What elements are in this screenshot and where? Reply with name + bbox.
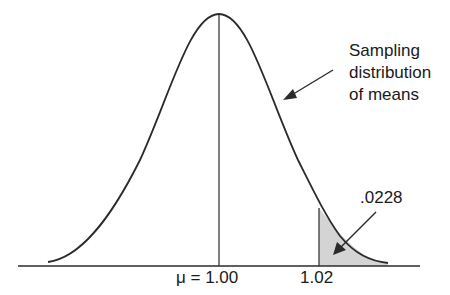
arrow-icon	[283, 70, 333, 100]
tick-label-mean: μ = 1.00	[176, 268, 238, 288]
bell-curve	[48, 14, 388, 263]
curve-annotation-line: Sampling	[349, 40, 431, 62]
shaded-tail-area	[319, 208, 388, 266]
curve-annotation-line: distribution	[349, 62, 431, 84]
tick-label-cutoff: 1.02	[300, 268, 333, 288]
curve-annotation: Sampling distribution of means	[349, 40, 431, 106]
curve-annotation-line: of means	[349, 84, 431, 106]
area-annotation: .0228	[360, 188, 403, 208]
